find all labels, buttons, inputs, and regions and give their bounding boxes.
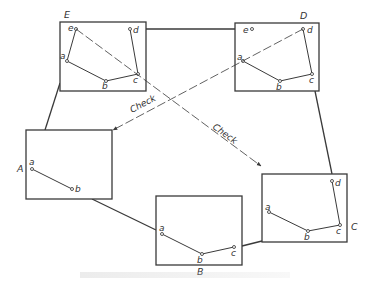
station-label-d: d — [133, 25, 139, 35]
check-label: Check — [211, 122, 240, 147]
traverse-diagram: edabcEedabcDabAabcBabcdC CheckCheck — [0, 0, 367, 283]
station-label-c: c — [309, 75, 314, 85]
station-label-a: a — [265, 202, 271, 212]
station-point-b — [71, 188, 74, 191]
station-label-b: b — [197, 255, 203, 265]
sheet-box-e: edabcE — [60, 9, 146, 91]
station-label-b: b — [102, 81, 108, 91]
sheet-label-a: A — [16, 163, 24, 174]
station-point-a — [31, 168, 34, 171]
station-label-a: a — [60, 51, 66, 61]
sheet-boxes: edabcEedabcDabAabcBabcdC — [16, 9, 358, 277]
sheet-label-c: C — [351, 221, 358, 232]
station-label-b: b — [276, 82, 282, 92]
connector-a-b — [92, 199, 156, 230]
station-label-a: a — [159, 223, 165, 233]
station-label-c: c — [231, 248, 236, 258]
connector-b-c — [242, 241, 262, 246]
station-label-a: a — [237, 52, 243, 62]
sheet-box-d: edabcD — [235, 10, 319, 92]
connector-e-a — [45, 83, 60, 130]
connector-d-c — [315, 91, 332, 174]
sheet-label-d: D — [300, 10, 307, 21]
station-label-e: e — [243, 25, 249, 35]
station-label-a: a — [29, 157, 35, 167]
station-point-d — [331, 180, 334, 183]
station-label-b: b — [75, 184, 81, 194]
sheet-box-a: abA — [16, 130, 112, 199]
station-point-d — [129, 28, 132, 31]
sheet-box-b: abcB — [156, 196, 242, 277]
station-point-e — [251, 28, 254, 31]
figure-caption-illegible — [80, 272, 290, 278]
station-label-d: d — [335, 178, 341, 188]
station-label-c: c — [133, 75, 138, 85]
sheet-box-c: abcdC — [262, 174, 358, 242]
station-label-d: d — [307, 25, 313, 35]
station-label-e: e — [68, 23, 74, 33]
station-label-b: b — [304, 232, 310, 242]
sheet-label-e: E — [64, 9, 70, 20]
sheet-frame — [26, 130, 112, 199]
check-label: Check — [128, 93, 158, 115]
station-point-a — [66, 60, 69, 63]
station-label-c: c — [336, 226, 341, 236]
